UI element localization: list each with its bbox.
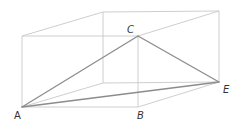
cuboid-diagram: [0, 0, 240, 126]
edge-a-c: [22, 36, 138, 107]
edge-a-e: [22, 82, 219, 107]
triangle-ace: [22, 36, 219, 107]
label-a: A: [14, 111, 21, 121]
edge-c-e: [138, 36, 219, 82]
label-e: E: [223, 85, 229, 95]
label-c: C: [127, 25, 134, 35]
edge-c-back-top-right: [138, 11, 219, 36]
box-edges: [22, 11, 219, 107]
edge-b-e: [138, 82, 219, 107]
edge-back-bottom: [103, 82, 219, 83]
edge-a-back-bottom-left: [22, 83, 103, 107]
label-b: B: [137, 111, 144, 121]
edge-top-left-depth: [22, 12, 103, 36]
edge-back-top: [103, 11, 219, 12]
